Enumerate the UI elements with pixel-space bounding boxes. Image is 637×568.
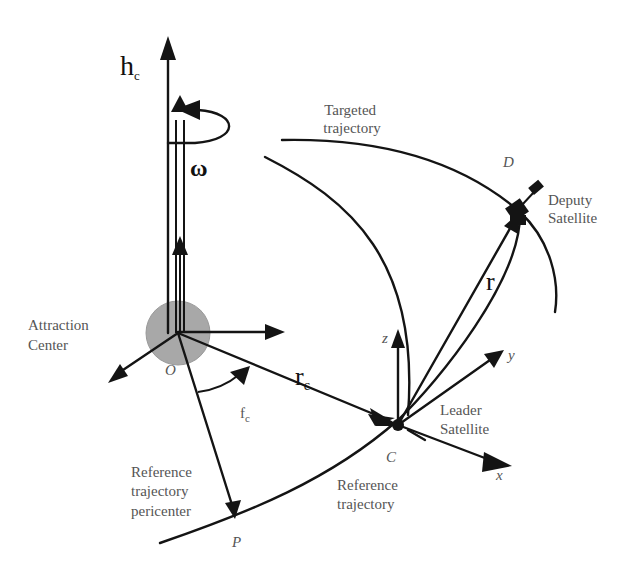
true-anomaly-arc <box>198 366 250 392</box>
h-c-vector <box>160 36 176 333</box>
deputy-relative-path-curve <box>265 157 409 415</box>
leader-satellite-icon <box>392 419 425 440</box>
r-c-vector <box>178 333 400 426</box>
f-c-label: fc <box>240 405 250 424</box>
axis-x-label: x <box>495 467 503 483</box>
orbital-geometry-diagram: hc ω Targeted trajectory D Deputy Satell… <box>0 0 637 568</box>
point-o-label: O <box>165 362 176 378</box>
point-c-label: C <box>386 449 397 465</box>
deputy-satellite-icon <box>505 180 544 225</box>
z-axis-lvlh <box>391 329 405 425</box>
reference-trajectory-curve <box>160 215 520 543</box>
attraction-center-label: Attraction Center <box>28 317 93 353</box>
h-c-label: hc <box>120 50 140 83</box>
targeted-trajectory-label: Targeted trajectory <box>323 102 381 136</box>
omega-label: ω <box>190 155 208 181</box>
axis-y-label: y <box>506 347 515 363</box>
point-d-label: D <box>502 154 514 170</box>
reference-pericenter-label: Reference trajectory pericenter <box>131 464 196 519</box>
leader-satellite-label: Leader Satellite <box>440 402 489 437</box>
r-label: r <box>486 267 495 296</box>
r-c-label: rc <box>295 362 310 393</box>
reference-trajectory-label: Reference trajectory <box>337 477 402 512</box>
r-vector <box>398 212 520 425</box>
omega-vector <box>171 95 189 333</box>
axis-z-label: z <box>381 330 388 346</box>
deputy-satellite-label: Deputy Satellite <box>548 192 597 226</box>
point-p-label: P <box>231 534 241 550</box>
